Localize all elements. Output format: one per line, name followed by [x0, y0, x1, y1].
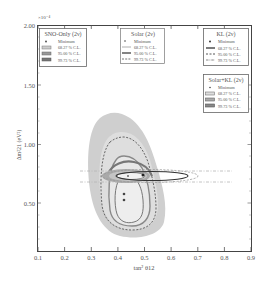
svg-text:Minimum: Minimum [58, 39, 75, 44]
svg-text:95.00 % C.L.: 95.00 % C.L. [134, 51, 156, 56]
svg-text:68.27 % C.L.: 68.27 % C.L. [218, 91, 240, 96]
legend-solar: Solar (2ν) Minimum 68.27 % C.L. 95.00 % … [121, 29, 165, 64]
x-tick-label: 0.8 [220, 254, 228, 261]
svg-text:95.00 % C.L.: 95.00 % C.L. [58, 51, 80, 56]
y-axis-label: Δm²21 (eV²) [16, 130, 23, 161]
contour-chart: 0.1 0.2 0.3 0.4 0.5 0.6 0.7 0.8 0.9 tan²… [0, 0, 266, 283]
svg-text:68.27 % C.L.: 68.27 % C.L. [134, 45, 156, 50]
x-tick-label: 0.5 [140, 254, 148, 261]
svg-text:99.73 % C.L.: 99.73 % C.L. [218, 104, 240, 109]
y-tick-label: 2.00 [24, 22, 35, 29]
svg-text:Solar (2ν): Solar (2ν) [131, 31, 155, 38]
svg-text:Minimum: Minimum [218, 39, 235, 44]
x-tick-label: 0.9 [247, 254, 255, 261]
svg-text:99.73 % C.L.: 99.73 % C.L. [218, 58, 240, 63]
x-tick-label: 0.1 [34, 254, 42, 261]
x-tick-label: 0.6 [167, 254, 176, 261]
svg-text:99.73 % C.L.: 99.73 % C.L. [58, 58, 80, 63]
svg-text:95.00 % C.L.: 95.00 % C.L. [218, 52, 240, 57]
y-tick-label: 0.50 [24, 200, 35, 207]
minimum-solar [123, 199, 126, 202]
svg-text:KL (2ν): KL (2ν) [217, 31, 236, 38]
contour-regions [80, 113, 232, 238]
legend-sno-only: SNO-Only (2ν) Minimum 68.27 % C.L. 95.00… [40, 29, 87, 67]
y-tick-labels: 0.50 1.00 1.50 2.00 [24, 22, 35, 207]
svg-text:95.00 % C.L.: 95.00 % C.L. [218, 97, 240, 102]
x-tick-label: 0.3 [87, 254, 95, 261]
y-tick-label: 1.00 [24, 141, 35, 148]
x-axis-label: tan² θ12 [133, 264, 154, 271]
svg-text:Solar+KL (2ν): Solar+KL (2ν) [208, 77, 243, 84]
x-tick-labels: 0.1 0.2 0.3 0.4 0.5 0.6 0.7 0.8 0.9 [34, 254, 255, 261]
y-axis-multiplier: ×10⁻⁴ [38, 15, 50, 20]
legend-kl: KL (2ν) Minimum 68.27 % C.L. 95.00 % C.L… [204, 29, 249, 66]
svg-text:SNO-Only (2ν): SNO-Only (2ν) [44, 31, 81, 38]
x-tick-label: 0.7 [194, 254, 203, 261]
svg-text:68.27 % C.L.: 68.27 % C.L. [58, 45, 80, 50]
minimum-solar-kl [127, 175, 129, 177]
svg-text:Minimum: Minimum [218, 85, 235, 90]
legend-solar-kl: Solar+KL (2ν) Minimum 68.27 % C.L. 95.00… [204, 75, 249, 113]
svg-text:Minimum: Minimum [134, 39, 151, 44]
minimum-sno [123, 193, 126, 196]
svg-text:68.27 % C.L.: 68.27 % C.L. [218, 46, 240, 51]
y-tick-label: 1.50 [24, 82, 35, 89]
x-tick-label: 0.2 [61, 254, 69, 261]
minimum-kl [142, 174, 145, 177]
x-tick-label: 0.4 [114, 254, 123, 261]
svg-text:99.73 % C.L.: 99.73 % C.L. [134, 57, 156, 62]
